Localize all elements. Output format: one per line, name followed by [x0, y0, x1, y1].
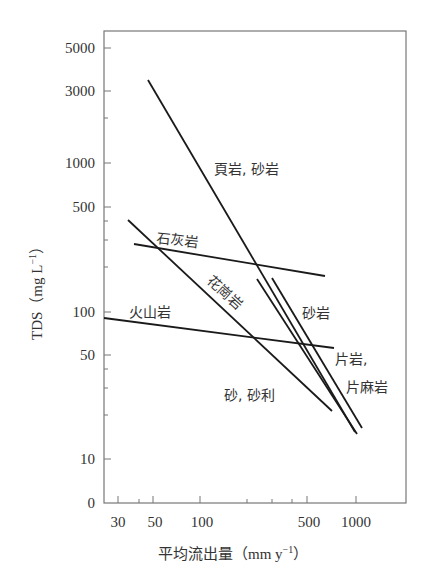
x-tick-500: 500: [298, 514, 321, 530]
y-tick-labels: 5000 3000 1000 500 100 50 10 0: [65, 40, 95, 511]
y-tick-0: 0: [88, 495, 96, 511]
label-granite: 花崗岩: [204, 272, 246, 312]
label-sand-gravel: 砂, 砂利: [224, 387, 275, 403]
label-gneiss: 片麻岩: [346, 379, 388, 395]
x-tick-1000: 1000: [341, 514, 371, 530]
y-tick-500: 500: [73, 199, 96, 215]
label-limestone: 石灰岩: [156, 230, 199, 250]
y-tick-1000: 1000: [65, 155, 95, 171]
line-shale-sandstone: [148, 80, 355, 432]
label-shale-sandstone: 頁岩, 砂岩: [214, 161, 279, 177]
plot-frame: [104, 31, 406, 503]
x-tick-50: 50: [148, 514, 163, 530]
y-tick-3000: 3000: [65, 83, 95, 99]
series-lines: [104, 80, 362, 434]
label-schist: 片岩,: [335, 351, 367, 367]
x-tick-labels: 30 50 100 500 1000: [111, 514, 372, 530]
y-ticks: [104, 48, 111, 459]
x-tick-100: 100: [191, 514, 214, 530]
label-volcanic: 火山岩: [129, 304, 171, 320]
chart-canvas: 5000 3000 1000 500 100 50 10 0 30 50 100…: [0, 0, 433, 584]
y-tick-10: 10: [80, 451, 95, 467]
y-tick-5000: 5000: [65, 40, 95, 56]
x-ticks: [118, 496, 356, 503]
line-limestone: [134, 244, 325, 276]
y-axis-title: TDS（mg L−1）: [27, 239, 45, 340]
y-tick-50: 50: [80, 347, 95, 363]
x-tick-30: 30: [111, 514, 126, 530]
label-sandstone: 砂岩: [302, 305, 330, 321]
x-axis-title: 平均流出量（mm y−1）: [158, 544, 308, 562]
y-tick-100: 100: [73, 304, 96, 320]
